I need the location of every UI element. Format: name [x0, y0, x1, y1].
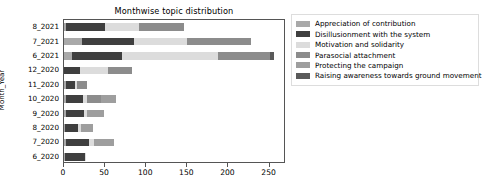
bar-segment	[66, 81, 75, 88]
bar-row	[64, 52, 284, 59]
legend-item[interactable]: Parasocial attachment	[296, 50, 474, 60]
legend-item[interactable]: Raising awareness towards ground movemen…	[296, 71, 474, 81]
legend-item[interactable]: Protecting the campaign	[296, 61, 474, 71]
chart-legend: Appreciation of contributionDisillusionm…	[291, 14, 479, 86]
bar-segment	[66, 139, 88, 146]
legend-swatch-icon	[296, 42, 310, 48]
legend-swatch-icon	[296, 52, 310, 58]
bar-segment	[65, 153, 86, 160]
bar-segment	[108, 67, 133, 74]
y-tick-label-group: 8_20217_20216_202112_202011_202010_20209…	[13, 19, 59, 163]
x-tick-mark	[186, 163, 187, 167]
x-tick-label: 200	[212, 168, 242, 177]
bar-segment	[66, 95, 83, 102]
bar-segment	[187, 38, 251, 45]
x-tick-label: 0	[48, 168, 78, 177]
legend-label: Appreciation of contribution	[315, 19, 415, 28]
bar-segment	[80, 67, 107, 74]
bar-row	[64, 110, 284, 117]
bar-row	[64, 139, 284, 146]
bar-row	[64, 81, 284, 88]
legend-swatch-icon	[296, 21, 310, 27]
bar-segment	[270, 52, 275, 59]
bar-row	[64, 95, 284, 102]
y-tick-label: 6_2020	[15, 152, 59, 161]
y-axis-label: Month_Year	[0, 60, 6, 120]
y-tick-label: 7_2020	[15, 137, 59, 146]
bar-segment	[64, 52, 72, 59]
bar-segment	[66, 23, 105, 30]
legend-swatch-icon	[296, 31, 310, 37]
x-tick-mark	[104, 163, 105, 167]
bar-segment	[81, 124, 93, 131]
x-tick-label: 50	[89, 168, 119, 177]
chart-title: Monthwise topic distribution	[63, 6, 285, 16]
x-tick-mark	[227, 163, 228, 167]
bar-segment	[72, 52, 121, 59]
bar-segment	[65, 124, 78, 131]
legend-label: Parasocial attachment	[315, 51, 395, 60]
bar-segment	[66, 110, 84, 117]
legend-swatch-icon	[296, 73, 310, 79]
chart-figure: Monthwise topic distribution Month_Year …	[0, 0, 483, 187]
y-tick-label: 8_2021	[15, 22, 59, 31]
bar-segment	[122, 52, 218, 59]
x-tick-mark	[145, 163, 146, 167]
bar-segment	[94, 139, 115, 146]
x-tick-label: 250	[254, 168, 284, 177]
legend-item[interactable]: Appreciation of contribution	[296, 19, 474, 29]
plot-area	[63, 19, 285, 163]
bar-segment	[77, 81, 87, 88]
bar-row	[64, 38, 284, 45]
y-tick-label: 9_2020	[15, 109, 59, 118]
x-tick-label: 100	[130, 168, 160, 177]
bar-segment	[85, 153, 86, 160]
bar-segment	[87, 95, 101, 102]
y-tick-label: 11_2020	[15, 80, 59, 89]
bar-segment	[105, 23, 139, 30]
bar-segment	[64, 67, 80, 74]
bar-segment	[87, 110, 104, 117]
bar-row	[64, 23, 284, 30]
legend-item[interactable]: Motivation and solidarity	[296, 40, 474, 50]
x-tick-mark	[63, 163, 64, 167]
y-tick-label: 6_2021	[15, 51, 59, 60]
bar-row	[64, 124, 284, 131]
bar-segment	[64, 38, 82, 45]
bar-segment	[134, 38, 187, 45]
bars-layer	[64, 20, 284, 162]
legend-item[interactable]: Disillusionment with the system	[296, 29, 474, 39]
bar-segment	[82, 38, 134, 45]
bar-segment	[139, 23, 184, 30]
legend-swatch-icon	[296, 62, 310, 68]
y-tick-label: 8_2020	[15, 123, 59, 132]
legend-label: Protecting the campaign	[315, 61, 403, 70]
legend-label: Raising awareness towards ground movemen…	[315, 71, 482, 80]
x-tick-label: 150	[171, 168, 201, 177]
bar-segment	[101, 95, 116, 102]
bar-row	[64, 153, 284, 160]
legend-label: Motivation and solidarity	[315, 40, 404, 49]
legend-label: Disillusionment with the system	[315, 30, 430, 39]
y-tick-label: 7_2021	[15, 37, 59, 46]
x-tick-mark	[269, 163, 270, 167]
y-tick-label: 10_2020	[15, 94, 59, 103]
bar-segment	[218, 52, 270, 59]
y-tick-label: 12_2020	[15, 65, 59, 74]
bar-row	[64, 67, 284, 74]
